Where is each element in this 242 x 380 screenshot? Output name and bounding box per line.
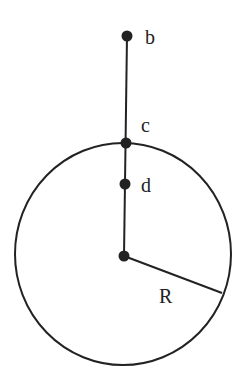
label-c: c <box>141 114 150 136</box>
label-b: b <box>145 26 155 48</box>
point-b <box>122 31 133 42</box>
diagram-svg: b c d R <box>0 0 242 380</box>
point-d <box>120 179 131 190</box>
radius-line <box>124 256 222 293</box>
diagram-canvas: b c d R <box>0 0 242 380</box>
point-center <box>119 251 130 262</box>
label-radius-R: R <box>159 285 173 307</box>
point-c <box>121 138 132 149</box>
label-d: d <box>141 174 151 196</box>
